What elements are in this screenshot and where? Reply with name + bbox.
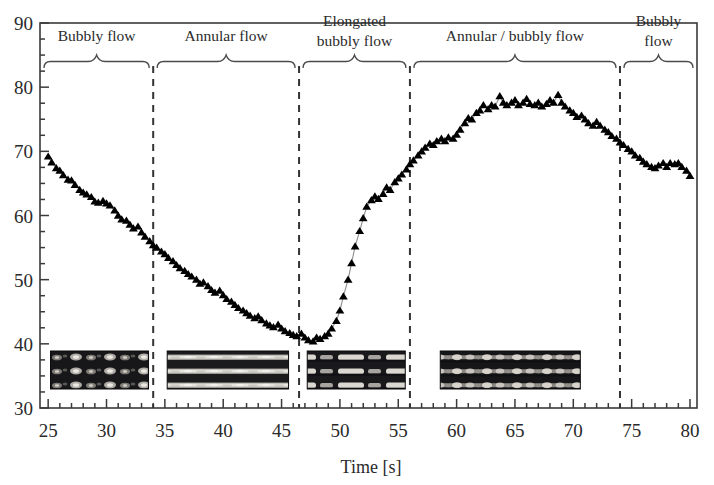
y-tick-label-90: 90 [14, 13, 33, 34]
x-tick-label-40: 40 [214, 420, 233, 441]
x-axis-tick-labels: 253035404550556065707580 [39, 420, 700, 441]
region-label-annular-flow: Annular flow [185, 27, 269, 44]
y-tick-label-70: 70 [14, 141, 33, 162]
x-tick-label-50: 50 [330, 420, 349, 441]
region-label-bubbly-flow-1: Bubbly flow [58, 27, 137, 44]
flow-regime-chart-figure: 30405060708090 253035404550556065707580 … [0, 0, 714, 485]
flow-visualization-photos [51, 351, 581, 389]
y-tick-label-40: 40 [14, 334, 33, 355]
region-label-elongated-bubbly-flow-line2: bubbly flow [317, 32, 393, 49]
y-tick-label-60: 60 [14, 206, 33, 227]
x-tick-label-55: 55 [389, 420, 408, 441]
y-tick-label-30: 30 [14, 398, 33, 419]
x-tick-label-60: 60 [447, 420, 466, 441]
x-tick-label-30: 30 [97, 420, 116, 441]
x-tick-label-75: 75 [622, 420, 641, 441]
region-label-bubbly-flow-2-line1: Bubbly [636, 12, 682, 29]
bubbly-flow-photo [51, 351, 149, 389]
annular-bubbly-flow-photo [440, 351, 580, 389]
y-axis-tick-labels: 30405060708090 [14, 13, 33, 419]
chart-canvas: 30405060708090 253035404550556065707580 … [0, 0, 714, 485]
elongated-bubbly-flow-photo [307, 351, 405, 389]
x-tick-label-70: 70 [564, 420, 583, 441]
x-tick-label-45: 45 [272, 420, 291, 441]
region-label-annular-bubbly-flow: Annular / bubbly flow [446, 27, 585, 44]
annular-flow-photo [167, 351, 288, 389]
x-tick-label-25: 25 [39, 420, 58, 441]
x-tick-label-65: 65 [505, 420, 524, 441]
y-tick-label-80: 80 [14, 77, 33, 98]
plot-frame [40, 23, 697, 408]
y-tick-label-50: 50 [14, 270, 33, 291]
x-tick-label-35: 35 [155, 420, 174, 441]
region-label-elongated-bubbly-flow-line1: Elongated [323, 12, 386, 29]
region-label-bubbly-flow-2-line2: flow [644, 32, 673, 49]
x-tick-label-80: 80 [680, 420, 699, 441]
x-axis-title: Time [s] [341, 457, 402, 477]
